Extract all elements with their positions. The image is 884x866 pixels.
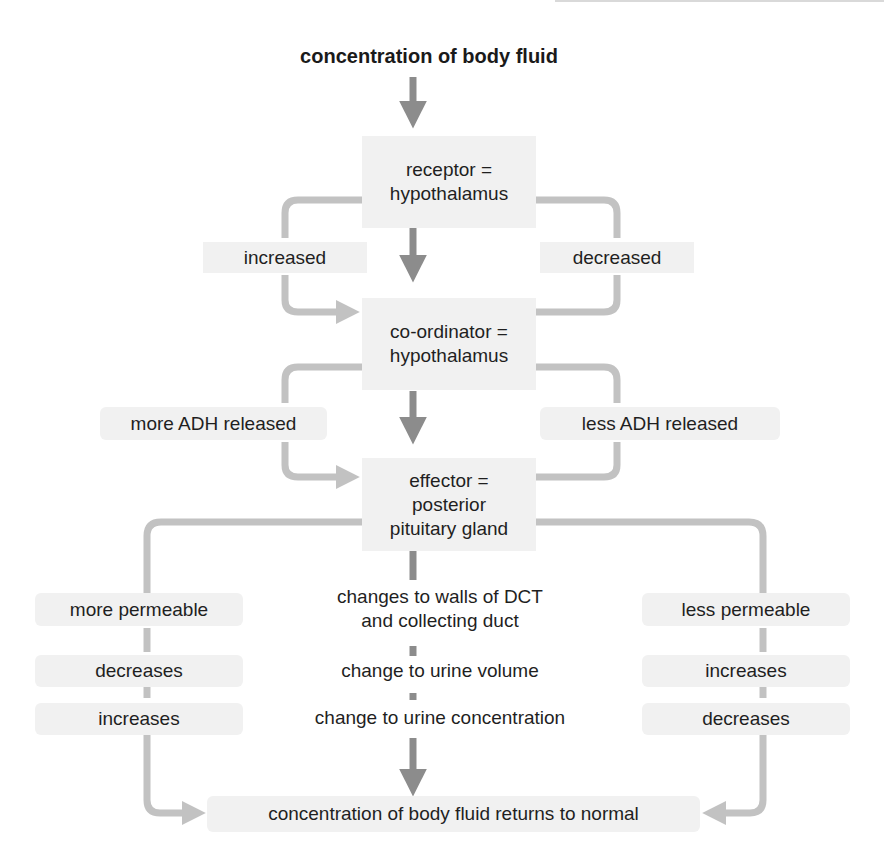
outcome-box: concentration of body fluid returns to n… — [207, 796, 700, 832]
start-condition-title: concentration of body fluid — [250, 45, 608, 68]
right-volume-box: increases — [642, 655, 850, 687]
stimulus-increased-box: increased — [203, 242, 367, 273]
left-volume-box: decreases — [35, 655, 243, 687]
right-concentration-box: decreases — [642, 703, 850, 735]
more-adh-box: more ADH released — [100, 407, 327, 440]
less-adh-box: less ADH released — [540, 407, 780, 440]
left-concentration-box: increases — [35, 703, 243, 735]
left-permeability-box: more permeable — [35, 593, 243, 626]
arrow-left-loop-1 — [285, 200, 362, 238]
coordinator-box: co-ordinator = hypothalamus — [362, 298, 536, 390]
effector-label: effector = — [409, 469, 488, 493]
receptor-box: receptor = hypothalamus — [362, 136, 536, 228]
receptor-label: receptor = — [406, 158, 492, 182]
stimulus-decreased-box: decreased — [540, 242, 694, 273]
effector-box: effector = posterior pituitary gland — [362, 458, 536, 551]
receptor-organ: hypothalamus — [390, 182, 508, 206]
walls-change-label: changes to walls of DCT and collecting d… — [300, 585, 580, 633]
arrow-left-outer — [147, 522, 362, 593]
urine-volume-label: change to urine volume — [300, 659, 580, 683]
arrow-left-loop-2 — [285, 367, 362, 403]
coordinator-label: co-ordinator = — [390, 320, 508, 344]
coordinator-organ: hypothalamus — [390, 344, 508, 368]
urine-concentration-label: change to urine concentration — [270, 706, 610, 730]
right-permeability-box: less permeable — [642, 593, 850, 626]
